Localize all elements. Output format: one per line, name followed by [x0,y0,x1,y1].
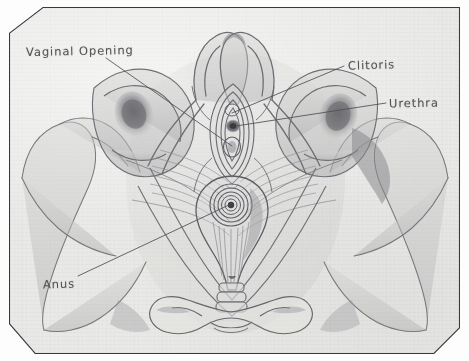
label-urethra: Urethra [389,96,439,111]
label-clitoris: Clitoris [348,57,395,72]
label-anus: Anus [43,277,75,292]
screenshot-root: Vaginal Opening Clitoris Urethra Anus [0,0,469,361]
label-vaginal-opening: Vaginal Opening [26,43,134,59]
